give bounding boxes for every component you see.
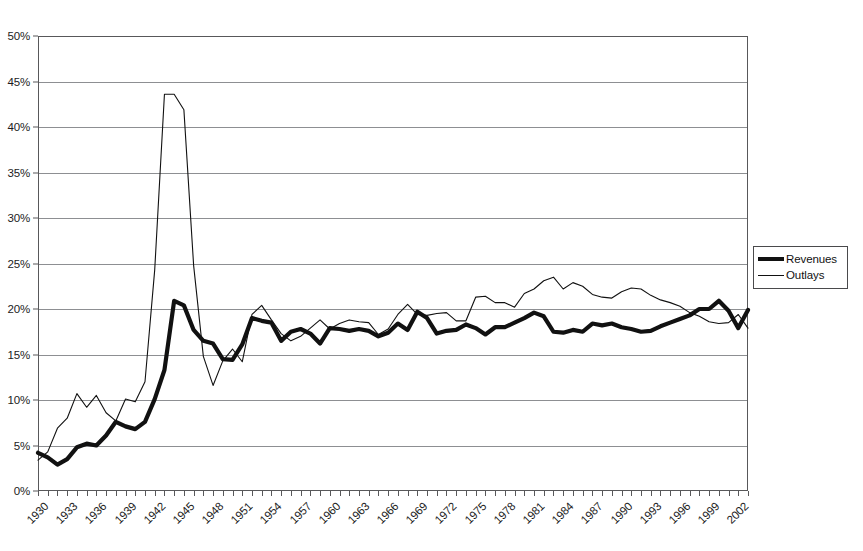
series-layer — [38, 36, 748, 491]
x-tick-mark — [446, 491, 447, 496]
x-tick-mark — [660, 491, 661, 496]
x-tick-mark — [174, 491, 175, 496]
x-tick-label: 1990 — [608, 500, 634, 526]
x-tick-mark — [729, 491, 730, 496]
x-axis: 1930193319361939194219451948195119541957… — [38, 491, 748, 551]
x-tick-mark — [622, 491, 623, 496]
x-tick-mark — [301, 491, 302, 496]
x-tick-mark — [553, 491, 554, 496]
x-tick-mark — [437, 491, 438, 496]
x-tick-mark — [252, 491, 253, 496]
x-tick-mark — [573, 491, 574, 496]
plot-area — [38, 36, 748, 491]
x-tick-label: 1936 — [83, 500, 109, 526]
x-tick-mark — [67, 491, 68, 496]
x-tick-mark — [583, 491, 584, 496]
y-tick-label: 50% — [8, 30, 30, 42]
x-tick-mark — [87, 491, 88, 496]
x-tick-mark — [223, 491, 224, 496]
x-tick-mark — [96, 491, 97, 496]
x-tick-mark — [651, 491, 652, 496]
x-tick-mark — [203, 491, 204, 496]
x-tick-mark — [670, 491, 671, 496]
x-tick-label: 1951 — [229, 500, 255, 526]
y-tick-label: 30% — [8, 212, 30, 224]
x-tick-mark — [641, 491, 642, 496]
x-tick-label: 1993 — [637, 500, 663, 526]
chart-legend: RevenuesOutlays — [753, 246, 848, 289]
x-tick-mark — [417, 491, 418, 496]
x-tick-mark — [38, 491, 39, 496]
x-tick-label: 1966 — [375, 500, 401, 526]
x-tick-mark — [126, 491, 127, 496]
x-tick-mark — [466, 491, 467, 496]
x-tick-mark — [340, 491, 341, 496]
x-tick-mark — [592, 491, 593, 496]
x-tick-mark — [563, 491, 564, 496]
thick-line-swatch — [758, 257, 784, 261]
x-tick-label: 1960 — [316, 500, 342, 526]
y-tick-label: 5% — [14, 440, 30, 452]
x-tick-label: 1978 — [491, 500, 517, 526]
legend-label: Outlays — [784, 269, 824, 281]
y-tick-label: 0% — [14, 485, 30, 497]
x-tick-label: 1954 — [258, 500, 284, 526]
x-tick-mark — [408, 491, 409, 496]
x-tick-mark — [690, 491, 691, 496]
y-tick-label: 35% — [8, 167, 30, 179]
x-tick-mark — [310, 491, 311, 496]
x-tick-mark — [427, 491, 428, 496]
series-line-outlays — [38, 94, 748, 460]
x-tick-mark — [106, 491, 107, 496]
x-tick-mark — [291, 491, 292, 496]
y-axis: 0%5%10%15%20%25%30%35%40%45%50% — [0, 36, 38, 491]
x-tick-mark — [213, 491, 214, 496]
x-tick-mark — [145, 491, 146, 496]
x-tick-mark — [349, 491, 350, 496]
x-tick-label: 1972 — [433, 500, 459, 526]
x-tick-mark — [57, 491, 58, 496]
x-tick-mark — [378, 491, 379, 496]
x-tick-mark — [699, 491, 700, 496]
x-tick-label: 1996 — [666, 500, 692, 526]
x-tick-label: 1963 — [345, 500, 371, 526]
x-tick-label: 1987 — [579, 500, 605, 526]
x-tick-mark — [135, 491, 136, 496]
x-tick-mark — [495, 491, 496, 496]
x-tick-label: 1945 — [170, 500, 196, 526]
x-tick-mark — [709, 491, 710, 496]
x-tick-mark — [155, 491, 156, 496]
legend-label: Revenues — [784, 253, 837, 265]
y-tick-label: 15% — [8, 349, 30, 361]
y-tick-label: 25% — [8, 258, 30, 270]
x-tick-mark — [233, 491, 234, 496]
x-tick-mark — [359, 491, 360, 496]
legend-item-outlays[interactable]: Outlays — [758, 267, 843, 283]
x-tick-mark — [116, 491, 117, 496]
x-tick-mark — [388, 491, 389, 496]
x-tick-mark — [476, 491, 477, 496]
x-tick-mark — [242, 491, 243, 496]
x-tick-mark — [719, 491, 720, 496]
x-tick-label: 1984 — [550, 500, 576, 526]
x-tick-mark — [456, 491, 457, 496]
x-tick-mark — [164, 491, 165, 496]
y-tick-label: 40% — [8, 121, 30, 133]
x-tick-mark — [524, 491, 525, 496]
x-tick-mark — [77, 491, 78, 496]
x-tick-mark — [534, 491, 535, 496]
legend-item-revenues[interactable]: Revenues — [758, 251, 843, 267]
x-tick-mark — [398, 491, 399, 496]
x-tick-mark — [320, 491, 321, 496]
thin-line-swatch — [758, 275, 784, 276]
x-tick-mark — [262, 491, 263, 496]
chart-page: 0%5%10%15%20%25%30%35%40%45%50% 19301933… — [0, 0, 863, 551]
x-tick-mark — [48, 491, 49, 496]
x-tick-label: 1981 — [520, 500, 546, 526]
y-tick-label: 10% — [8, 394, 30, 406]
x-tick-mark — [602, 491, 603, 496]
y-tick-label: 45% — [8, 76, 30, 88]
x-tick-label: 1948 — [200, 500, 226, 526]
x-tick-mark — [330, 491, 331, 496]
x-tick-mark — [194, 491, 195, 496]
